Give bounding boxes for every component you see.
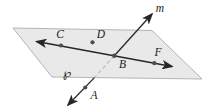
point-B-dot — [112, 54, 116, 58]
label-point-F: F — [153, 46, 162, 58]
plane-surface — [13, 28, 202, 79]
point-D-dot — [90, 40, 94, 44]
label-point-B: B — [119, 58, 126, 70]
point-C-dot — [59, 43, 63, 47]
label-point-A: A — [89, 89, 98, 101]
point-F-dot — [152, 61, 156, 65]
label-line-m: m — [156, 2, 164, 14]
point-A-dot — [83, 85, 87, 89]
geometry-diagram: C D m F B A ℘ — [0, 0, 209, 111]
label-point-C: C — [56, 28, 64, 40]
label-point-D: D — [96, 28, 106, 40]
diagram-canvas: C D m F B A ℘ — [0, 0, 209, 111]
label-plane-P: ℘ — [63, 66, 72, 80]
